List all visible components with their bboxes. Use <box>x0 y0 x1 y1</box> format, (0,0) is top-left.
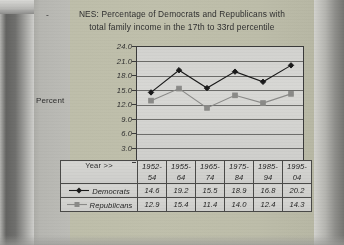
y-axis-label: Percent <box>36 96 64 105</box>
data-point-marker <box>205 106 210 111</box>
data-point-marker <box>149 98 154 103</box>
title-bullet-icon: - <box>46 9 49 22</box>
table-cell: 20.2 <box>283 184 312 198</box>
chart-title-line-1: NES: Percentage of Democrats and Republi… <box>42 8 322 21</box>
table-header-row: Year >>1952-541955-641965-741975-841985-… <box>61 161 312 184</box>
y-tick-label: 24.0 <box>96 42 132 51</box>
column-header-1995-04: 1995-04 <box>283 161 312 184</box>
table-cell: 18.9 <box>225 184 254 198</box>
year-axis-label: Year >> <box>85 161 113 170</box>
data-point-marker <box>232 69 237 74</box>
y-axis-tick <box>132 104 136 105</box>
table-cell: 12.4 <box>254 198 283 212</box>
data-point-marker <box>233 93 238 98</box>
plot-area <box>136 46 304 162</box>
column-header-1965-74: 1965-74 <box>196 161 225 184</box>
data-point-marker <box>289 92 294 97</box>
y-axis-tick <box>132 119 136 120</box>
table-cell: 16.8 <box>254 184 283 198</box>
chart-title: - NES: Percentage of Democrats and Repub… <box>42 8 322 33</box>
y-axis-tick <box>132 61 136 62</box>
table-row: Democrats14.619.215.518.916.820.2 <box>61 184 312 198</box>
table-cell: 15.4 <box>167 198 196 212</box>
table-cell: 14.3 <box>283 198 312 212</box>
data-table-wrapper: Year >>1952-541955-641965-741975-841985-… <box>60 160 304 212</box>
chart-title-line-2: total family income in the 17th to 33rd … <box>42 21 322 34</box>
legend-cell-republicans: Republicans <box>61 198 138 212</box>
y-tick-label: 3.0 <box>96 143 132 152</box>
y-tick-label: 9.0 <box>96 114 132 123</box>
y-axis-tick <box>132 162 136 163</box>
legend-cell-democrats: Democrats <box>61 184 138 198</box>
legend-label: Democrats <box>92 186 130 195</box>
column-header-1975-84: 1975-84 <box>225 161 254 184</box>
legend-label: Republicans <box>90 200 133 209</box>
column-header-1955-64: 1955-64 <box>167 161 196 184</box>
table-row: Republicans12.915.411.414.012.414.3 <box>61 198 312 212</box>
table-cell: 12.9 <box>138 198 167 212</box>
data-point-marker <box>261 101 266 106</box>
y-axis-tick <box>132 133 136 134</box>
data-table: Year >>1952-541955-641965-741975-841985-… <box>60 160 312 212</box>
y-tick-label: 15.0 <box>96 85 132 94</box>
y-tick-label: 18.0 <box>96 71 132 80</box>
column-header-1985-94: 1985-94 <box>254 161 283 184</box>
y-tick-label: 6.0 <box>96 129 132 138</box>
table-cell: 14.6 <box>138 184 167 198</box>
y-axis-tick <box>132 90 136 91</box>
chart-figure: - NES: Percentage of Democrats and Repub… <box>0 0 344 245</box>
legend-marker-square <box>66 200 88 209</box>
table-cell: 19.2 <box>167 184 196 198</box>
y-axis-tick <box>132 148 136 149</box>
table-cell: 15.5 <box>196 184 225 198</box>
data-point-marker <box>204 85 209 90</box>
table-corner-cell: Year >> <box>61 161 138 184</box>
series-lines <box>137 47 304 162</box>
y-axis-tick <box>132 75 136 76</box>
data-point-marker <box>288 63 293 68</box>
table-cell: 11.4 <box>196 198 225 212</box>
y-axis-tick <box>132 46 136 47</box>
plot-frame <box>136 46 304 162</box>
data-point-marker <box>260 79 265 84</box>
series-line-democrats <box>151 65 291 92</box>
table-cell: 14.0 <box>225 198 254 212</box>
legend-marker-diamond <box>68 186 90 195</box>
y-tick-label: 12.0 <box>96 100 132 109</box>
y-tick-label: 21.0 <box>96 56 132 65</box>
column-header-1952-54: 1952-54 <box>138 161 167 184</box>
series-line-republicans <box>151 89 291 108</box>
data-point-marker <box>177 86 182 91</box>
y-axis-tick-labels: 24.021.018.015.012.09.06.03.00.0 <box>96 40 132 168</box>
